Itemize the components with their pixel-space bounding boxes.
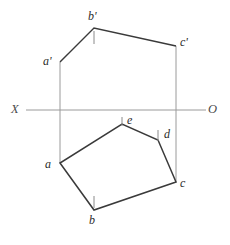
vertex-label-a-prime: a' xyxy=(43,55,52,67)
front-view-outline xyxy=(60,28,176,62)
vertex-label-c: c xyxy=(180,177,185,189)
top-view-pentagon xyxy=(60,124,176,210)
vertex-label-e: e xyxy=(127,114,132,126)
vertex-label-c-prime: c' xyxy=(180,36,188,48)
axis-label-x: X xyxy=(11,103,19,116)
vertex-label-d: d xyxy=(164,128,170,140)
drawing-surface xyxy=(0,0,230,245)
axis-label-o: O xyxy=(208,103,217,116)
vertex-label-a: a xyxy=(45,158,51,170)
vertex-label-b: b xyxy=(89,214,95,226)
projection-drawing-canvas: X O a' b' c' a b c d e xyxy=(0,0,230,245)
vertex-label-b-prime: b' xyxy=(88,10,97,22)
